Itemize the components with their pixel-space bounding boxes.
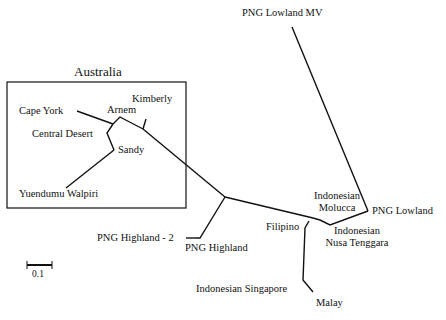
taxon-indonesian-nusa-line2: Nusa Tenggara: [312, 237, 402, 249]
branch-australia-to-center: [143, 129, 225, 197]
taxon-arnem: Arnem: [107, 104, 136, 116]
branch-yuendumu: [66, 150, 114, 188]
taxon-indonesian-singapore: Indonesian Singapore: [196, 283, 287, 295]
taxon-indonesian-nusa-line1: Indonesian: [312, 225, 402, 237]
taxon-indonesian-molucca: Indonesian Molucca: [303, 190, 371, 214]
taxon-png-lowland-mv: PNG Lowland MV: [242, 7, 323, 19]
taxon-malay: Malay: [316, 297, 343, 309]
taxon-png-highland: PNG Highland: [185, 242, 248, 254]
taxon-sandy: Sandy: [118, 144, 144, 156]
taxon-indonesian-nusa-tenggara: Indonesian Nusa Tenggara: [312, 225, 402, 249]
tree-canvas: [0, 0, 446, 320]
taxon-yuendumu-walpiri: Yuendumu Walpiri: [19, 188, 98, 200]
branch-arnem: [113, 117, 143, 129]
branch-png-highland: [196, 197, 225, 238]
taxon-filipino: Filipino: [266, 221, 299, 233]
branch-central-desert: [107, 124, 114, 150]
taxon-indonesian-molucca-line2: Molucca: [303, 202, 371, 214]
scale-bar-label: 0.1: [32, 268, 44, 280]
taxon-png-lowland: PNG Lowland: [372, 205, 433, 217]
taxon-central-desert: Central Desert: [32, 128, 93, 140]
australia-box-title: Australia: [74, 66, 122, 78]
branch-png-lowland-mv: [292, 27, 368, 211]
taxon-kimberly: Kimberly: [132, 93, 172, 105]
branch-kimberly: [143, 119, 146, 129]
taxon-cape-york: Cape York: [19, 105, 63, 117]
taxon-png-highland-2: PNG Highland - 2: [97, 232, 174, 244]
taxon-indonesian-molucca-line1: Indonesian: [303, 190, 371, 202]
branch-center-to-filipino: [225, 197, 313, 218]
